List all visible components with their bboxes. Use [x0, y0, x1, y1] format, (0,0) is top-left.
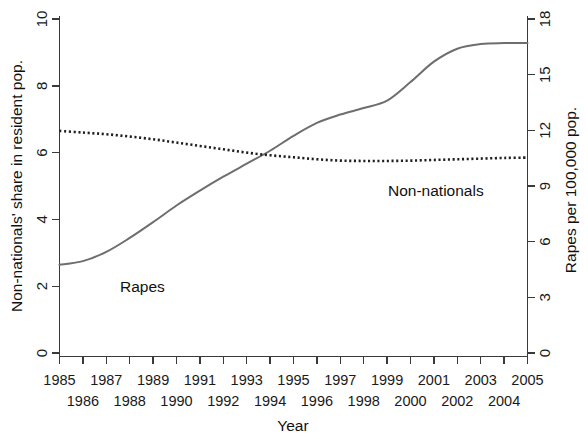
x-tick-label-1993: 1993: [231, 372, 263, 388]
x-tick-label-1987: 1987: [90, 372, 122, 388]
x-tick-label-2004: 2004: [488, 393, 520, 409]
right-axis-ticks: [528, 19, 535, 353]
x-tick-label-1994: 1994: [254, 393, 286, 409]
left-tick-label-0: 0: [33, 349, 50, 357]
x-tick-label-1985: 1985: [43, 372, 75, 388]
x-tick-label-1999: 1999: [371, 372, 403, 388]
left-axis-title: Non-nationals' share in resident pop.: [8, 60, 25, 312]
x-tick-label-1990: 1990: [160, 393, 192, 409]
x-tick-label-2003: 2003: [465, 372, 497, 388]
chart-svg: 10 8 6 4 2 0 Non-nationals' share in res…: [0, 0, 588, 439]
x-tick-label-1997: 1997: [324, 372, 356, 388]
x-tick-label-2001: 2001: [418, 372, 450, 388]
x-axis-tick-labels-even: 1986198819901992199419961998200020022004: [67, 393, 520, 409]
left-tick-label-8: 8: [33, 82, 50, 90]
x-tick-label-1988: 1988: [114, 393, 146, 409]
x-tick-label-1986: 1986: [67, 393, 99, 409]
x-tick-label-1995: 1995: [277, 372, 309, 388]
right-tick-label-12: 12: [536, 122, 553, 139]
left-axis-tick-labels: 10 8 6 4 2 0: [33, 11, 50, 358]
right-tick-label-3: 3: [536, 293, 553, 301]
series-annotation-rapes: Rapes: [120, 278, 165, 295]
series-annotation-non-nationals: Non-nationals: [388, 182, 484, 199]
x-tick-label-1992: 1992: [207, 393, 239, 409]
right-tick-label-6: 6: [536, 238, 553, 246]
x-tick-label-2005: 2005: [511, 372, 543, 388]
right-axis-tick-labels: 18 15 12 9 6 3 0: [536, 11, 553, 358]
x-tick-label-1991: 1991: [184, 372, 216, 388]
right-tick-label-9: 9: [536, 182, 553, 190]
x-tick-label-1989: 1989: [137, 372, 169, 388]
chart-figure: 10 8 6 4 2 0 Non-nationals' share in res…: [0, 0, 588, 439]
right-tick-label-0: 0: [536, 349, 553, 357]
right-tick-label-18: 18: [536, 11, 553, 28]
x-tick-label-1996: 1996: [301, 393, 333, 409]
left-tick-label-4: 4: [33, 215, 50, 223]
x-tick-label-1998: 1998: [348, 393, 380, 409]
right-axis-title: Rapes per 100,000 pop.: [562, 107, 579, 273]
x-tick-label-2000: 2000: [394, 393, 426, 409]
left-tick-label-2: 2: [33, 282, 50, 290]
x-tick-label-2002: 2002: [441, 393, 473, 409]
left-tick-label-10: 10: [33, 11, 50, 28]
x-axis-ticks: [60, 357, 528, 364]
series-line-rapes: [60, 43, 528, 265]
x-axis-tick-labels-odd: 1985198719891991199319951997199920012003…: [43, 372, 543, 388]
x-axis-title: Year: [277, 417, 308, 434]
left-axis-ticks: [52, 19, 59, 353]
left-tick-label-6: 6: [33, 148, 50, 156]
right-tick-label-15: 15: [536, 66, 553, 83]
